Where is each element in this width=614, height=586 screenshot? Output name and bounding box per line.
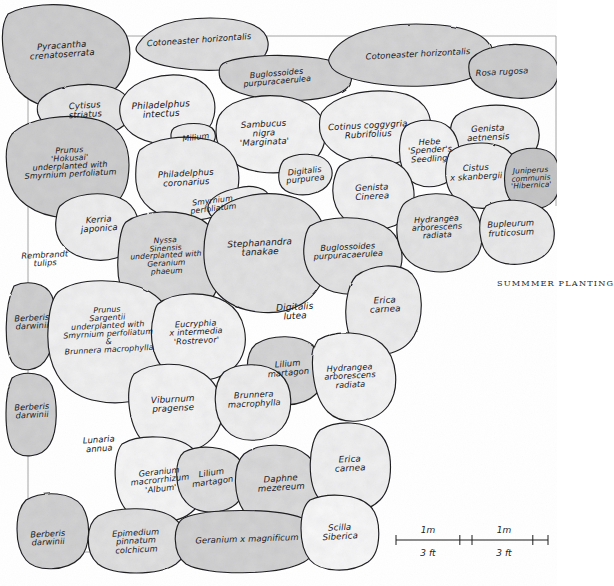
scale-label-1m-left: 1m (421, 525, 436, 535)
scale-label-3ft-left: 3 ft (420, 548, 435, 558)
scale-label-1m-right: 1m (497, 525, 512, 535)
plan-caption: SUMMMER PLANTING (497, 278, 614, 288)
scale-label-3ft-right: 3 ft (496, 548, 511, 558)
